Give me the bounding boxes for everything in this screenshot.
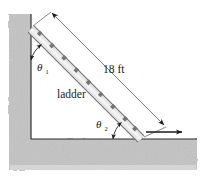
theta2-subscript: 2: [105, 125, 108, 132]
ladder-label: ladder: [57, 88, 86, 100]
length-label: 18 ft: [103, 63, 125, 75]
theta1-subscript: 1: [46, 68, 49, 75]
theta1-label: θ: [37, 61, 43, 73]
dimension-leader-top: [33, 12, 51, 26]
ladder-diagram: θ 1 θ 2 18 ft ladder: [0, 0, 205, 178]
floor-highlight-band: [10, 165, 196, 170]
corner-outline: [31, 14, 197, 139]
diagram-canvas: θ 1 θ 2 18 ft ladder: [0, 0, 205, 178]
theta2-label: θ: [96, 118, 102, 130]
ladder: [31, 29, 141, 139]
theta1-arc-arrow: [31, 45, 42, 61]
ladder-specular-highlight: [31, 29, 141, 139]
